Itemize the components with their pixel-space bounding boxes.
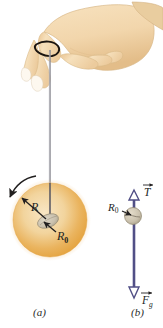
label-R: R (30, 200, 39, 214)
fbd-label-R0-subscript: 0 (115, 206, 119, 215)
panel-b-caption: (b) (131, 306, 144, 318)
label-R0-subscript: 0 (64, 236, 68, 245)
label-tension: T (144, 186, 152, 198)
label-tension-group: T (143, 183, 153, 198)
hand-illustration (21, 2, 163, 91)
tension-arrowhead (129, 190, 139, 200)
fbd-label-R0: R0 (107, 201, 119, 215)
free-body-diagram: R0 T Fg (107, 183, 153, 308)
label-gravity-subscript: g (149, 300, 153, 309)
yo-yo-physics-figure: R R0 R0 (0, 0, 163, 328)
gravity-arrowhead (129, 287, 139, 298)
panel-a-caption: (a) (33, 306, 46, 318)
figure-canvas: R R0 R0 (0, 0, 163, 328)
